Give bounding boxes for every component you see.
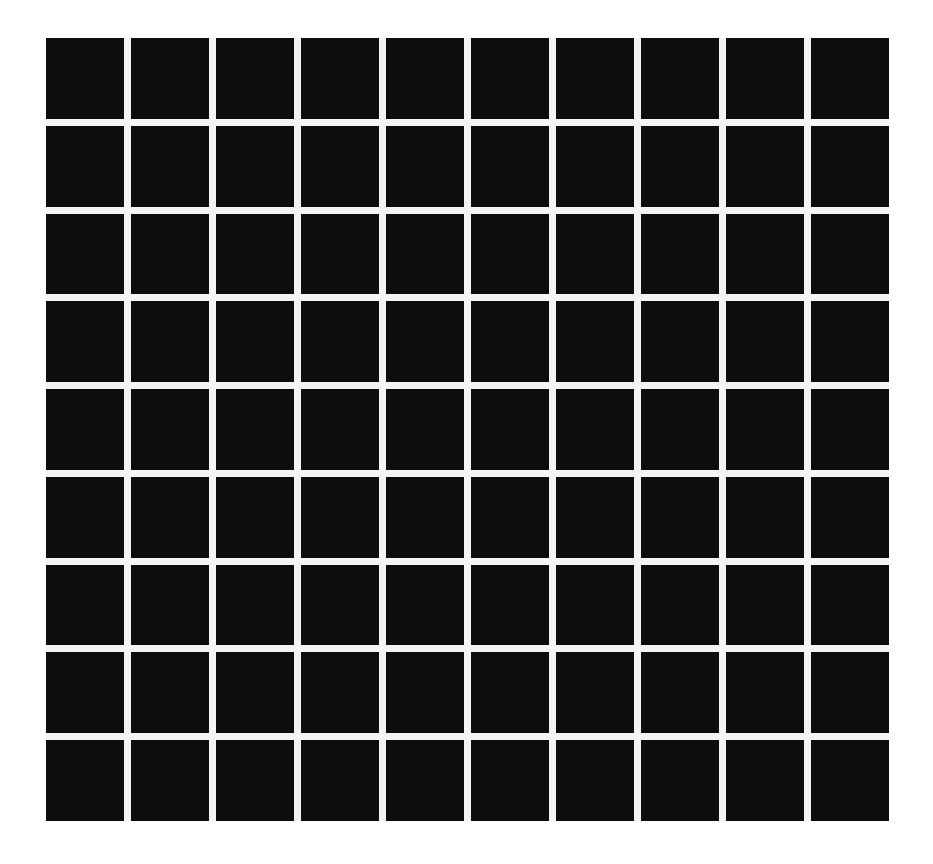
grid-cell — [726, 214, 804, 295]
grid-cell — [726, 38, 804, 119]
grid-cell — [386, 301, 464, 382]
grid-cell — [811, 389, 889, 470]
grid-cell — [641, 301, 719, 382]
grid-cell — [556, 301, 634, 382]
grid-cell — [726, 389, 804, 470]
grid-cell — [216, 38, 294, 119]
grid-cell — [301, 652, 379, 733]
grid-cell — [726, 126, 804, 207]
grid-cell — [216, 652, 294, 733]
grid-cell — [641, 38, 719, 119]
grid-cell — [386, 38, 464, 119]
grid-cell — [556, 477, 634, 558]
grid-cell — [556, 126, 634, 207]
grid-cell — [556, 652, 634, 733]
grid-cell — [46, 126, 124, 207]
grid-cell — [216, 389, 294, 470]
grid-cell — [131, 565, 209, 646]
grid-cell — [471, 301, 549, 382]
grid-cell — [216, 740, 294, 821]
grid-cell — [131, 652, 209, 733]
grid-cell — [301, 477, 379, 558]
grid-cell — [216, 126, 294, 207]
grid-cell — [726, 301, 804, 382]
grid-cell — [46, 214, 124, 295]
grid-cell — [131, 740, 209, 821]
grid-cell — [216, 214, 294, 295]
grid-cell — [471, 740, 549, 821]
grid-cell — [811, 126, 889, 207]
grid-cell — [46, 740, 124, 821]
grid-cell — [301, 301, 379, 382]
grid-cell — [811, 565, 889, 646]
grid-cell — [641, 126, 719, 207]
grid-cell — [811, 740, 889, 821]
grid-cell — [556, 214, 634, 295]
grid-cell — [386, 477, 464, 558]
grid-cell — [131, 477, 209, 558]
grid-cell — [131, 301, 209, 382]
grid-cell — [131, 126, 209, 207]
grid-cell — [46, 301, 124, 382]
grid-cell — [471, 38, 549, 119]
grid-cell — [556, 565, 634, 646]
grid-cell — [811, 477, 889, 558]
grid-cell — [811, 652, 889, 733]
grid-cell — [471, 214, 549, 295]
grid-cell — [726, 652, 804, 733]
grid-cell — [386, 389, 464, 470]
grid-cell — [386, 214, 464, 295]
grid-cell — [641, 652, 719, 733]
grid-cell — [641, 740, 719, 821]
grid-cell — [471, 389, 549, 470]
grid-cell — [811, 38, 889, 119]
grid-cell — [46, 477, 124, 558]
grid-cell — [301, 214, 379, 295]
grid-cell — [301, 740, 379, 821]
grid-cell — [46, 38, 124, 119]
grid-cell — [301, 565, 379, 646]
grid-cell — [46, 652, 124, 733]
grid-cell — [386, 740, 464, 821]
grid-cell — [471, 652, 549, 733]
canvas — [0, 0, 933, 864]
grid-cell — [46, 389, 124, 470]
grid-cell — [301, 38, 379, 119]
grid-cell — [641, 214, 719, 295]
grid-cell — [556, 740, 634, 821]
grid-cell — [131, 389, 209, 470]
grid-cell — [216, 565, 294, 646]
grid-cell — [811, 214, 889, 295]
grid-cell — [556, 38, 634, 119]
grid-cell — [301, 126, 379, 207]
grid-cell — [131, 38, 209, 119]
grid-cell — [811, 301, 889, 382]
black-square-grid — [46, 38, 889, 821]
grid-cell — [46, 565, 124, 646]
grid-cell — [641, 477, 719, 558]
grid-cell — [131, 214, 209, 295]
grid-cell — [471, 126, 549, 207]
grid-cell — [301, 389, 379, 470]
grid-cell — [726, 740, 804, 821]
grid-cell — [471, 565, 549, 646]
grid-cell — [641, 389, 719, 470]
grid-cell — [386, 565, 464, 646]
grid-cell — [726, 477, 804, 558]
grid-cell — [386, 652, 464, 733]
grid-cell — [471, 477, 549, 558]
grid-cell — [556, 389, 634, 470]
grid-cell — [216, 477, 294, 558]
grid-cell — [386, 126, 464, 207]
grid-cell — [726, 565, 804, 646]
grid-cell — [641, 565, 719, 646]
grid-cell — [216, 301, 294, 382]
